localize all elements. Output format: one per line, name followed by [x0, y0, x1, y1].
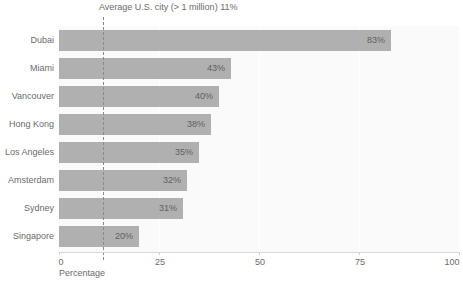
- bar-value-label: 43%: [59, 58, 225, 79]
- category-label: Amsterdam: [0, 170, 54, 191]
- bar-row: 38%: [59, 114, 459, 135]
- bar-row: 83%: [59, 30, 459, 51]
- category-label: Los Angeles: [0, 142, 54, 163]
- category-label: Sydney: [0, 198, 54, 219]
- bar-value-label: 40%: [59, 86, 213, 107]
- bar-row: 43%: [59, 58, 459, 79]
- average-reference-label: Average U.S. city (> 1 million) 11%: [99, 2, 237, 12]
- category-label: Dubai: [0, 30, 54, 51]
- x-tick-mark: [59, 252, 60, 255]
- bar-value-label: 20%: [59, 226, 133, 247]
- x-tick-mark: [159, 252, 160, 255]
- bar-value-label: 32%: [59, 170, 181, 191]
- bar-row: 31%: [59, 198, 459, 219]
- category-label: Singapore: [0, 226, 54, 247]
- bar-chart: Dubai Miami Vancouver Hong Kong Los Ange…: [0, 0, 463, 281]
- bar-row: 35%: [59, 142, 459, 163]
- bar-value-label: 38%: [59, 114, 205, 135]
- category-axis: Dubai Miami Vancouver Hong Kong Los Ange…: [0, 26, 54, 252]
- bar-value-label: 31%: [59, 198, 177, 219]
- bar-value-label: 83%: [59, 30, 385, 51]
- category-label: Hong Kong: [0, 114, 54, 135]
- bar-row: 32%: [59, 170, 459, 191]
- x-tick-label: 50: [255, 257, 265, 267]
- x-tick-label: 100: [444, 257, 459, 267]
- bar-row: 40%: [59, 86, 459, 107]
- category-label: Vancouver: [0, 86, 54, 107]
- x-tick-mark: [259, 252, 260, 255]
- x-tick-label: 25: [155, 257, 165, 267]
- x-tick-mark: [359, 252, 360, 255]
- average-reference-line: [103, 17, 104, 260]
- bar-row: 20%: [59, 226, 459, 247]
- category-label: Miami: [0, 58, 54, 79]
- x-tick-mark: [459, 252, 460, 255]
- x-axis-title: Percentage: [59, 268, 105, 278]
- bar-value-label: 35%: [59, 142, 193, 163]
- x-tick-label: 0: [58, 257, 63, 267]
- x-tick-label: 75: [355, 257, 365, 267]
